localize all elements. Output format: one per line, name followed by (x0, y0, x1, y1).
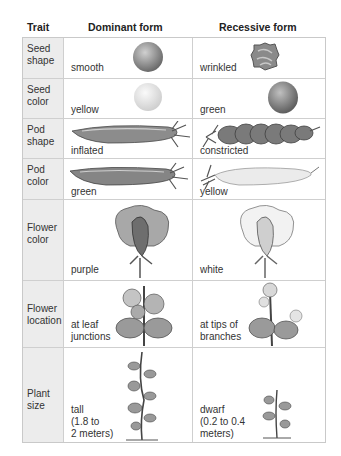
purple-flower-icon (108, 202, 176, 280)
wrinkled-pea-seed-icon (250, 41, 280, 71)
trait-cell: Plant size (23, 348, 64, 442)
trait-cell: Flower color (23, 200, 64, 280)
trait-cell: Seed shape (23, 38, 64, 78)
recessive-cell: at tips of branches (193, 281, 325, 347)
recessive-cell: white (193, 200, 325, 280)
recessive-cell: green (193, 79, 325, 118)
recessive-label: wrinkled (200, 62, 237, 74)
table-row-flower-location: Flower location at leaf junctions at tip… (23, 280, 325, 347)
table-row-seed-color: Seed color yellow green (23, 78, 325, 118)
dominant-label: tall (1.8 to 2 meters) (71, 404, 113, 440)
dominant-cell: inflated (64, 119, 193, 158)
axial-flowers-plant-icon (114, 282, 174, 348)
trait-label: Flower color (27, 222, 57, 246)
trait-label: Flower location (27, 303, 61, 327)
dominant-label: purple (71, 264, 99, 276)
recessive-cell: dwarf (0.2 to 0.4 meters) (193, 348, 325, 442)
recessive-cell: yellow (193, 159, 325, 199)
mendel-traits-table: Seed shape smooth wrinkled Seed color ye… (22, 37, 326, 443)
white-flower-icon (233, 202, 301, 280)
table-row-flower-color: Flower color purple white (23, 199, 325, 280)
smooth-pea-seed-icon (132, 41, 164, 73)
dwarf-pea-plant-icon (255, 386, 299, 442)
dominant-cell: purple (64, 200, 193, 280)
header-recessive-form: Recessive form (219, 21, 297, 33)
green-pod-icon (66, 161, 192, 191)
dominant-cell: smooth (64, 38, 193, 78)
recessive-cell: constricted (193, 119, 325, 158)
dominant-label: at leaf junctions (71, 319, 110, 343)
tall-pea-plant-icon (120, 350, 164, 442)
terminal-flowers-plant-icon (248, 282, 308, 348)
dominant-cell: at leaf junctions (64, 281, 193, 347)
dominant-label: smooth (71, 62, 104, 74)
recessive-cell: wrinkled (193, 38, 325, 78)
constricted-pod-icon (198, 121, 322, 149)
recessive-label: white (200, 264, 223, 276)
trait-label: Pod color (27, 164, 49, 188)
header-trait: Trait (27, 21, 49, 33)
trait-cell: Pod shape (23, 119, 64, 158)
header-dominant-form: Dominant form (88, 21, 163, 33)
trait-label: Pod shape (27, 124, 54, 148)
trait-cell: Flower location (23, 281, 64, 347)
trait-label: Plant size (27, 388, 50, 412)
trait-cell: Seed color (23, 79, 64, 118)
trait-label: Seed color (27, 84, 50, 108)
dominant-cell: yellow (64, 79, 193, 118)
yellow-pod-icon (195, 161, 321, 191)
dominant-cell: tall (1.8 to 2 meters) (64, 348, 193, 442)
trait-cell: Pod color (23, 159, 64, 199)
table-row-pod-color: Pod color green yellow (23, 158, 325, 199)
inflated-pod-icon (68, 121, 192, 149)
recessive-label: at tips of branches (200, 319, 241, 343)
yellow-pea-seed-icon (133, 82, 163, 112)
dominant-cell: green (64, 159, 193, 199)
table-row-seed-shape: Seed shape smooth wrinkled (23, 38, 325, 78)
green-pea-seed-icon (267, 81, 299, 114)
trait-label: Seed shape (27, 43, 54, 67)
recessive-label: dwarf (0.2 to 0.4 meters) (200, 404, 245, 440)
table-row-pod-shape: Pod shape inflated constricted (23, 118, 325, 158)
table-row-plant-size: Plant size tall (1.8 to 2 meters) dwarf … (23, 347, 325, 442)
recessive-label: green (200, 104, 226, 116)
dominant-label: yellow (71, 104, 99, 116)
